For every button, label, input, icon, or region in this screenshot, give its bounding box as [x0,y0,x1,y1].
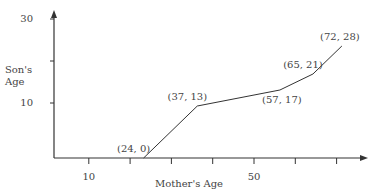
point-label: (65, 21) [283,59,323,70]
y-axis-title-line2: Age [4,76,25,87]
tick-labels: 10501030 [20,13,260,182]
chart: 10501030 (24, 0)(37, 13)(57, 17)(65, 21)… [0,0,373,192]
point-label: (37, 13) [168,91,208,102]
y-axis-arrow-icon [51,10,57,18]
y-tick-label: 10 [20,97,33,108]
point-label: (24, 0) [117,143,150,154]
x-axis-title: Mother's Age [155,178,223,189]
x-tick-label: 50 [248,171,261,182]
y-axis-title-line1: Son's [5,64,32,75]
y-tick-label: 30 [20,13,33,24]
point-labels: (24, 0)(37, 13)(57, 17)(65, 21)(72, 28) [117,31,360,154]
point-label: (57, 17) [262,94,302,105]
x-tick-label: 10 [82,171,95,182]
point-label: (72, 28) [320,31,360,42]
x-axis-arrow-icon [360,155,368,161]
